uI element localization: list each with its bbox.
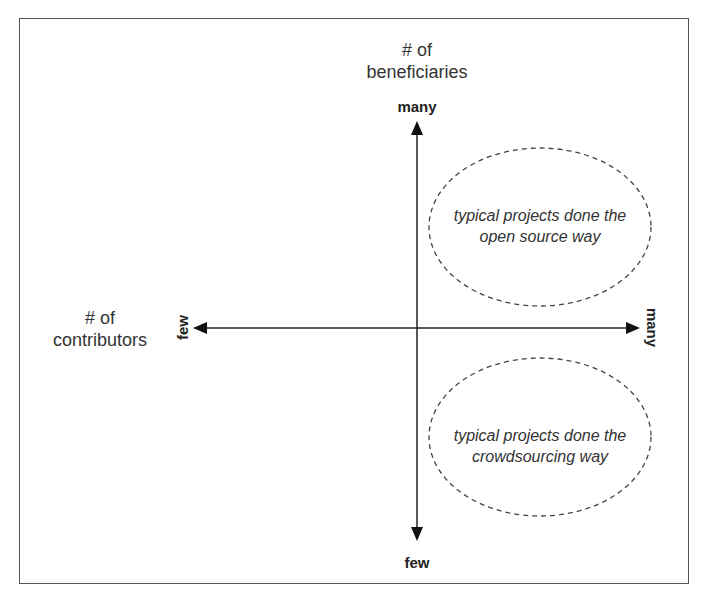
x-axis-title-line1: # of xyxy=(25,307,175,329)
y-axis-title: # of beneficiaries xyxy=(330,39,504,83)
y-axis-bottom-label: few xyxy=(377,554,457,571)
x-axis-title-line2: contributors xyxy=(25,329,175,351)
crowdsourcing-region-line1: typical projects done the xyxy=(430,425,650,446)
y-axis-up-arrow-icon xyxy=(411,121,423,135)
x-axis-title: # of contributors xyxy=(25,307,175,351)
crowdsourcing-region-line2: crowdsourcing way xyxy=(430,446,650,467)
x-axis-right-arrow-icon xyxy=(626,322,640,334)
y-axis-top-label: many xyxy=(377,98,457,115)
y-axis-down-arrow-icon xyxy=(411,527,423,541)
axes-svg xyxy=(0,0,702,594)
crowdsourcing-region-label: typical projects done the crowdsourcing … xyxy=(430,425,650,467)
x-axis-right-label: many xyxy=(644,303,661,353)
x-axis-left-arrow-icon xyxy=(193,322,207,334)
x-axis-left-label: few xyxy=(174,308,191,348)
open-source-region-label: typical projects done the open source wa… xyxy=(430,205,650,247)
y-axis-title-line2: beneficiaries xyxy=(330,61,504,83)
open-source-region-line2: open source way xyxy=(430,226,650,247)
open-source-region-line1: typical projects done the xyxy=(430,205,650,226)
y-axis-title-line1: # of xyxy=(330,39,504,61)
